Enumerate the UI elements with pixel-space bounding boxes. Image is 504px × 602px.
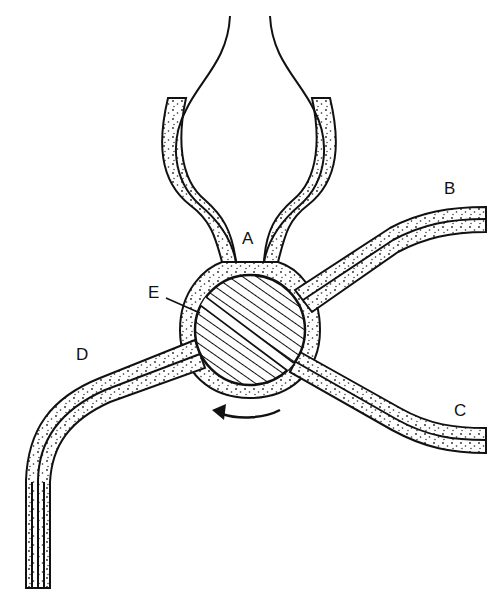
stopcock-diagram: A B C D E: [0, 0, 504, 602]
rotation-arrow-icon: [212, 404, 280, 420]
label-e: E: [148, 283, 159, 302]
label-d: D: [76, 345, 88, 364]
label-b: B: [444, 179, 455, 198]
reservoir-bulb: [176, 16, 324, 262]
label-c: C: [454, 401, 466, 420]
label-a: A: [242, 229, 254, 248]
